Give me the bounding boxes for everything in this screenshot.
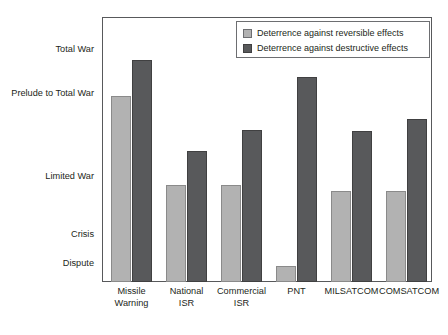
bar-missile-warning-destructive (132, 60, 152, 282)
legend: Deterrence against reversible effects De… (236, 21, 430, 58)
legend-swatch-reversible-icon (243, 29, 252, 38)
bar-pnt-reversible (276, 266, 296, 282)
bar-commercial-isr-destructive (242, 130, 262, 282)
bar-national-isr-reversible (166, 185, 186, 282)
legend-swatch-destructive-icon (243, 44, 252, 53)
x-tick-milsatcom: MILSATCOM (324, 286, 379, 298)
bar-milsatcom-destructive (352, 131, 372, 282)
x-tick-commercial-isr: CommercialISR (214, 286, 269, 309)
y-tick-limited-war: Limited War (45, 171, 94, 181)
bar-missile-warning-reversible (111, 96, 131, 282)
x-tick-comsatcom: COMSATCOM (379, 286, 434, 298)
bar-chart: Total War Prelude to Total War Limited W… (0, 0, 448, 335)
y-axis-labels: Total War Prelude to Total War Limited W… (0, 0, 98, 335)
bar-milsatcom-reversible (331, 191, 351, 282)
y-tick-total-war: Total War (56, 44, 94, 54)
x-tick-missile-warning: MissileWarning (104, 286, 159, 309)
y-tick-prelude: Prelude to Total War (11, 88, 94, 98)
x-tick-national-isr: NationalISR (159, 286, 214, 309)
legend-item-destructive: Deterrence against destructive effects (243, 41, 424, 55)
bar-comsatcom-reversible (386, 191, 406, 282)
legend-item-reversible: Deterrence against reversible effects (243, 26, 424, 40)
y-tick-crisis: Crisis (71, 229, 94, 239)
legend-label-reversible: Deterrence against reversible effects (257, 28, 403, 38)
bar-commercial-isr-reversible (221, 185, 241, 282)
y-tick-dispute: Dispute (63, 258, 94, 268)
legend-label-destructive: Deterrence against destructive effects (257, 43, 408, 53)
bar-national-isr-destructive (187, 151, 207, 282)
x-tick-pnt: PNT (269, 286, 324, 298)
bar-comsatcom-destructive (407, 119, 427, 282)
bar-pnt-destructive (297, 77, 317, 282)
x-axis-labels: MissileWarningNationalISRCommercialISRPN… (102, 286, 432, 332)
